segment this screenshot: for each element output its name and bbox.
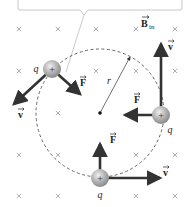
radius-label: r xyxy=(107,75,111,86)
field-label-b: B xyxy=(141,18,148,29)
plus-sign-icon: + xyxy=(97,173,103,184)
field-into-page-icon xyxy=(173,69,177,73)
plus-sign-icon: + xyxy=(49,64,55,75)
field-into-page-icon xyxy=(17,27,21,31)
field-into-page-icon xyxy=(56,111,60,115)
field-into-page-icon xyxy=(173,194,177,198)
radius: r xyxy=(98,57,130,115)
field-into-page-icon xyxy=(56,194,60,198)
field-into-page-icon xyxy=(134,27,138,31)
field-into-page-icon xyxy=(94,27,98,31)
force-label: F xyxy=(134,93,140,106)
charge-label: q xyxy=(98,189,103,200)
svg-text:v: v xyxy=(168,41,173,52)
field-into-page-icon xyxy=(56,153,60,157)
charge-bottom: +qvF xyxy=(91,133,169,201)
field-label: B in xyxy=(141,16,155,32)
svg-text:F: F xyxy=(134,94,140,105)
charge-label: q xyxy=(34,63,39,74)
field-into-page-icon xyxy=(94,69,98,73)
force-label: F xyxy=(80,76,86,89)
plus-sign-icon: + xyxy=(158,110,164,121)
svg-text:F: F xyxy=(80,77,86,88)
center-dot xyxy=(98,111,102,115)
field-into-page-icon xyxy=(173,27,177,31)
field-into-page-icon xyxy=(134,69,138,73)
callout-pointer xyxy=(66,15,84,72)
field-into-page-icon xyxy=(56,27,60,31)
field-into-page-icon xyxy=(17,69,21,73)
velocity-label: v xyxy=(163,166,169,179)
field-into-page-icon xyxy=(17,194,21,198)
field-into-page-icon xyxy=(134,153,138,157)
charge-label: q xyxy=(168,124,173,135)
svg-text:v: v xyxy=(163,167,168,178)
field-into-page-icon xyxy=(134,194,138,198)
field-into-page-icon xyxy=(173,153,177,157)
charge-top-left: +qvF xyxy=(14,60,86,120)
field-into-page-icon xyxy=(17,153,21,157)
svg-text:v: v xyxy=(18,109,23,120)
field-label-subscript: in xyxy=(149,23,155,31)
charges: +qvF+qvF+qvF xyxy=(14,40,174,201)
callout-box xyxy=(18,0,182,72)
force-label: F xyxy=(110,133,116,146)
charge-right: +qvF xyxy=(125,40,174,136)
circular-motion-diagram: B in r +qvF+qvF+qvF xyxy=(0,0,191,207)
velocity-label: v xyxy=(168,40,174,53)
velocity-label: v xyxy=(18,108,24,121)
svg-text:F: F xyxy=(110,134,116,145)
